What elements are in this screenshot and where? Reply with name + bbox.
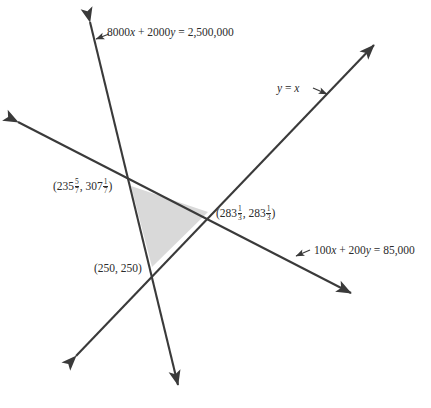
vertex-right-label: (28313, 28313) [216, 205, 275, 221]
vertex-upper-left-label: (23557, 30717) [53, 178, 112, 194]
feasible-region-shading [131, 186, 208, 267]
resource-equation-label: 100x + 200y = 85,000 [314, 244, 415, 257]
identity-var-x: x [294, 82, 299, 94]
diagram-canvas [0, 0, 431, 408]
pt-ul-close-paren: ) [109, 180, 113, 192]
resource-coef-y: 200 [349, 244, 366, 256]
pt-ul-y-denominator: 7 [103, 187, 108, 195]
identity-equals: = [285, 82, 292, 94]
pt-r-x-whole: 283 [220, 207, 237, 219]
identity-label-leader-arrow [313, 88, 327, 94]
budget-equation-label: 8000x + 2000y = 2,500,000 [107, 26, 234, 39]
budget-var-x: x [130, 26, 135, 38]
vertex-bottom-label: (250, 250) [94, 262, 142, 275]
budget-equals: = [178, 26, 185, 38]
pt-ul-x-fraction: 57 [75, 178, 80, 194]
pt-r-close-paren: ) [272, 207, 276, 219]
resource-constraint-line [18, 122, 351, 293]
budget-var-y: y [170, 26, 175, 38]
pt-r-y-denominator: 3 [266, 214, 271, 222]
identity-line [76, 45, 374, 356]
pt-r-y-fraction: 13 [266, 205, 271, 221]
resource-coef-x: 100 [314, 244, 331, 256]
pt-r-y-whole: 283 [249, 207, 266, 219]
budget-rhs: 2,500,000 [188, 26, 234, 38]
linear-programming-diagram: 8000x + 2000y = 2,500,000 y = x 100x + 2… [0, 0, 431, 408]
resource-label-leader-arrow [296, 250, 310, 256]
pt-ul-y-fraction: 17 [103, 178, 108, 194]
resource-rhs: 85,000 [383, 244, 415, 256]
pt-ul-x-whole: 235 [57, 180, 74, 192]
identity-equation-label: y = x [277, 82, 299, 95]
pt-r-x-denominator: 3 [238, 214, 243, 222]
resource-var-x: x [331, 244, 336, 256]
identity-var-y: y [277, 82, 282, 94]
budget-coef-x: 8000 [107, 26, 130, 38]
pt-r-x-fraction: 13 [238, 205, 243, 221]
resource-var-y: y [366, 244, 371, 256]
pt-ul-y-whole: 307 [86, 180, 103, 192]
resource-plus: + [339, 244, 346, 256]
budget-coef-y: 2000 [147, 26, 170, 38]
budget-plus: + [138, 26, 145, 38]
resource-equals: = [374, 244, 381, 256]
pt-ul-x-denominator: 7 [75, 187, 80, 195]
